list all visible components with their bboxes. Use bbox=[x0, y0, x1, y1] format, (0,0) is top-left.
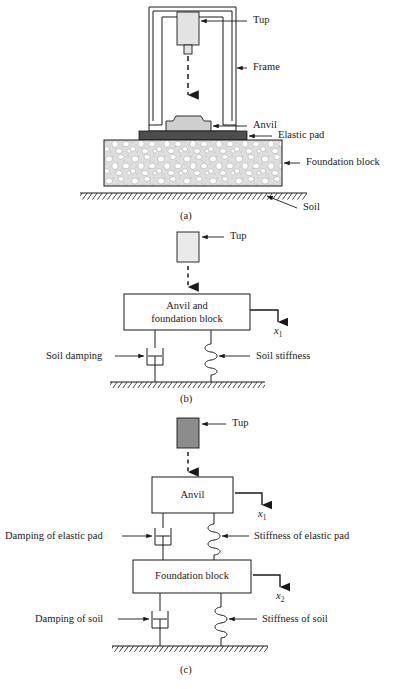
label-damping-soil-c: Damping of soil bbox=[35, 613, 103, 625]
coordinate-arrow-x1-b bbox=[250, 310, 278, 322]
elastic-pad-damper-c bbox=[155, 513, 171, 560]
tup-b bbox=[177, 232, 199, 262]
label-elastic-pad-a: Elastic pad bbox=[278, 129, 324, 141]
foundation-block-a bbox=[104, 140, 282, 186]
tup-a bbox=[177, 12, 199, 54]
coordinate-arrow-x2-c bbox=[253, 575, 280, 587]
mass-block-label-b: Anvil and foundation block bbox=[124, 299, 250, 325]
coordinate-arrow-x1-c bbox=[235, 493, 262, 505]
figure-canvas: Tup Frame Anvil Elastic pad Foundation b… bbox=[0, 0, 397, 689]
caption-c: (c) bbox=[180, 664, 192, 675]
label-stiffness-elastic-pad-c: Stiffness of elastic pad bbox=[254, 530, 349, 542]
caption-b: (b) bbox=[180, 393, 192, 404]
soil-spring-b bbox=[205, 330, 217, 382]
label-x1-c: x1 bbox=[258, 508, 266, 522]
anvil-a bbox=[166, 116, 211, 131]
mass-block-line1: Anvil and bbox=[166, 300, 208, 311]
soil-spring-c bbox=[215, 593, 227, 646]
label-x2-c: x2 bbox=[276, 590, 284, 604]
ground-b bbox=[110, 382, 265, 388]
label-x1-b: x1 bbox=[274, 325, 282, 339]
label-damping-elastic-pad-c: Damping of elastic pad bbox=[5, 530, 103, 542]
anvil-label-c: Anvil bbox=[152, 488, 233, 501]
label-anvil-a: Anvil bbox=[253, 119, 277, 131]
label-soil-damping-b: Soil damping bbox=[46, 350, 102, 362]
tup-c bbox=[177, 418, 199, 448]
soil-damper-c bbox=[152, 593, 168, 646]
x1-subscript-c: 1 bbox=[263, 514, 267, 522]
caption-a: (a) bbox=[180, 210, 192, 221]
figure-svg bbox=[0, 0, 397, 689]
label-stiffness-soil-c: Stiffness of soil bbox=[262, 613, 328, 625]
panel-a bbox=[80, 7, 307, 208]
mass-block-line2: foundation block bbox=[151, 313, 222, 324]
label-foundation-block-a: Foundation block bbox=[306, 156, 380, 168]
elastic-pad-spring-c bbox=[208, 513, 220, 560]
label-tup-a: Tup bbox=[253, 14, 270, 26]
ground-c bbox=[112, 646, 268, 652]
x2-subscript-c: 2 bbox=[281, 596, 285, 604]
label-soil-stiffness-b: Soil stiffness bbox=[256, 350, 310, 362]
label-tup-b: Tup bbox=[230, 230, 247, 242]
label-frame-a: Frame bbox=[253, 61, 280, 73]
foundation-block-label-c: Foundation block bbox=[133, 569, 251, 582]
elastic-pad-a bbox=[139, 131, 247, 140]
label-soil-a: Soil bbox=[303, 201, 320, 213]
soil-damper-b bbox=[147, 330, 163, 382]
x1-subscript-b: 1 bbox=[279, 331, 283, 339]
label-tup-c: Tup bbox=[232, 417, 249, 429]
